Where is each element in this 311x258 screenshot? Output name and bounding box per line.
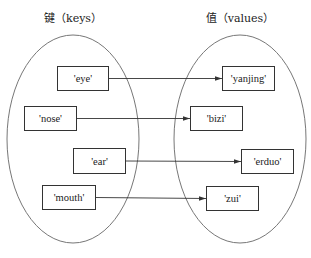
values-title: 值（values） [206,9,275,25]
value-node: 'zui' [206,186,259,211]
mapping-arrow [126,161,241,162]
mapping-arrows [77,79,241,199]
mapping-arrow [96,198,206,199]
keys-title: 键（keys） [44,9,102,25]
key-node: 'eye' [57,66,109,91]
value-node: 'bizi' [190,106,243,131]
key-node: 'ear' [73,148,126,174]
value-node: 'yanjing' [222,66,275,91]
key-node: 'mouth' [42,185,96,210]
dictionary-mapping-diagram: 键（keys） 值（values） 'eye''nose''ear''mouth… [0,0,311,258]
key-node: 'nose' [24,106,77,131]
value-node: 'erduo' [241,149,294,174]
